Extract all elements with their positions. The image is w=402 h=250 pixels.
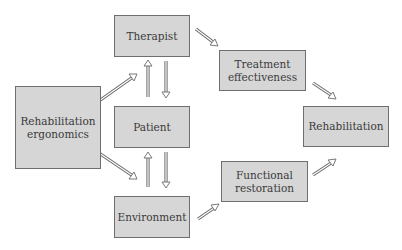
arrow-functional-to-rehabilitation — [313, 159, 336, 175]
arrow-patient-to-therapist — [144, 60, 152, 97]
node-functional-restoration: Functional restoration — [221, 161, 308, 202]
node-environment: Environment — [114, 196, 190, 238]
arrow-environment-to-patient — [144, 152, 152, 187]
arrow-patient-to-environment — [162, 152, 170, 188]
arrow-ergonomics-to-environment — [99, 153, 137, 179]
node-rehabilitation: Rehabilitation — [303, 106, 389, 147]
node-therapist: Therapist — [114, 15, 190, 57]
node-treatment-effectiveness: Treatment effectiveness — [219, 50, 306, 91]
node-patient: Patient — [114, 106, 190, 148]
node-rehabilitation-ergonomics: Rehabilitation ergonomics — [15, 86, 101, 169]
arrow-ergonomics-to-therapist — [99, 74, 137, 101]
arrow-therapist-to-treatment — [196, 29, 218, 46]
arrow-treatment-to-rehabilitation — [313, 83, 336, 99]
arrow-environment-to-functional — [198, 204, 219, 219]
arrow-therapist-to-patient — [162, 61, 170, 98]
